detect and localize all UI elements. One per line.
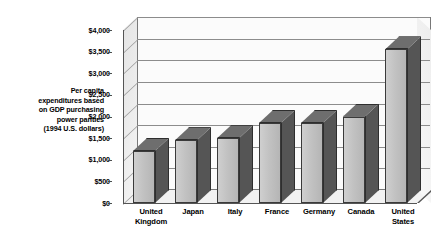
- bar-japan: [175, 127, 197, 203]
- chart-container: Per capita expenditures based on GDP pur…: [0, 0, 445, 237]
- bar-side-face: [365, 104, 379, 204]
- bar-side-face: [407, 36, 421, 203]
- category-label-line: United: [373, 207, 433, 217]
- bar-italy: [217, 125, 239, 203]
- bar-united-kingdom: [133, 138, 155, 203]
- y-tick-dash-2000: [108, 117, 112, 118]
- bar-front-face: [217, 138, 239, 203]
- category-label-line: Kingdom: [121, 217, 181, 227]
- bar-side-face: [239, 125, 253, 203]
- y-tick-dash-3500: [108, 52, 112, 53]
- bar-side-face: [197, 127, 211, 203]
- y-tick-dash-500: [108, 181, 112, 182]
- bar-germany: [301, 110, 323, 203]
- bar-front-face: [175, 140, 197, 203]
- y-tick-dash-0: [108, 203, 112, 204]
- y-tick-label-500: $500: [66, 177, 110, 186]
- y-tick-label-3000: $3,000: [66, 69, 110, 78]
- x-category-label-united-states: UnitedStates: [373, 207, 433, 227]
- gridline-4000: [138, 17, 430, 18]
- bar-front-face: [133, 151, 155, 203]
- bar-canada: [343, 104, 365, 204]
- x-axis-line: [123, 203, 417, 204]
- bar-front-face: [301, 123, 323, 203]
- bar-united-states: [385, 36, 407, 203]
- y-axis-line: [123, 30, 124, 203]
- y-tick-label-1500: $1,500: [66, 134, 110, 143]
- y-tick-dash-4000: [108, 30, 112, 31]
- y-tick-dash-3000: [108, 73, 112, 74]
- bar-front-face: [259, 123, 281, 203]
- bar-france: [259, 110, 281, 203]
- y-tick-label-2500: $2,500: [66, 90, 110, 99]
- bar-side-face: [281, 110, 295, 203]
- y-axis-tick-labels: $0$500$1,000$1,500$2,000$2,500$3,000$3,5…: [62, 0, 110, 237]
- y-tick-label-4000: $4,000: [66, 26, 110, 35]
- y-tick-dash-1500: [108, 138, 112, 139]
- category-label-line: States: [373, 217, 433, 227]
- bar-side-face: [323, 110, 337, 203]
- bar-front-face: [343, 117, 365, 204]
- y-tick-label-1000: $1,000: [66, 155, 110, 164]
- y-tick-label-0: $0: [66, 199, 110, 208]
- bar-front-face: [385, 49, 407, 203]
- y-tick-dash-1000: [108, 160, 112, 161]
- y-tick-label-2000: $2,000: [66, 112, 110, 121]
- y-tick-dash-2500: [108, 95, 112, 96]
- y-tick-label-3500: $3,500: [66, 47, 110, 56]
